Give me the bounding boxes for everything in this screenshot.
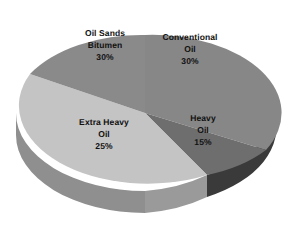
pie-chart-canvas (0, 0, 290, 242)
pie-chart-figure: Oil Sands Bitumen 30% Conventional Oil 3… (0, 0, 290, 242)
pie-top-face (19, 35, 282, 184)
